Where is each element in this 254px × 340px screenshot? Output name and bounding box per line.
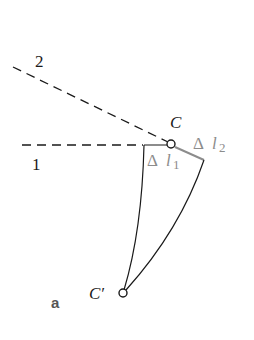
point-c-prime-label: C′ xyxy=(89,284,104,303)
dl2-sub: 2 xyxy=(219,140,226,155)
panel-label-a: a xyxy=(51,294,60,311)
dl1-sub: 1 xyxy=(173,157,180,172)
arc-from-bar1 xyxy=(124,145,144,290)
dl1-label: Δ l 1 xyxy=(147,151,180,172)
joint-c-circle xyxy=(167,140,175,148)
dl2-label: Δ l 2 xyxy=(193,134,226,155)
point-c-label: C xyxy=(170,113,182,132)
dl2-var: l xyxy=(212,134,217,153)
joint-c-prime-circle xyxy=(119,289,127,297)
truss-displacement-diagram: 2 1 C C′ Δ l 2 Δ l 1 a xyxy=(0,0,254,340)
dl1-delta: Δ xyxy=(147,151,158,170)
bar-2-dashed-line xyxy=(13,67,168,142)
dl1-var: l xyxy=(166,151,171,170)
dl2-delta: Δ xyxy=(193,134,204,153)
line-2-label: 2 xyxy=(35,52,44,71)
line-1-label: 1 xyxy=(32,155,41,174)
